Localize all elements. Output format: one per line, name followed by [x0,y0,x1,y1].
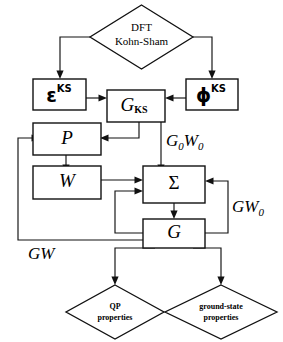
phi-superscript: KS [211,83,226,94]
qp-diamond-shape [66,285,164,339]
arrowhead-w-to-sigma [135,176,144,183]
connector-gks-to-p [107,122,139,138]
node-p[interactable]: P [33,123,101,155]
flowchart-canvas: DFT Kohn-Sham εKS ϕKS GKS P [0,0,283,342]
edge-label-gw0: GW0 [232,197,264,218]
dft-label-line1: DFT [131,21,152,33]
arrowhead-phi-to-gks [165,94,174,101]
edge-label-gw: GW [28,244,56,263]
connector-g-to-sigma-feedback [115,191,143,233]
node-epsilon-ks[interactable]: εKS [33,79,86,110]
g-ks-base-glyph: G [120,94,134,115]
p-label: P [60,127,73,148]
arrowhead-dft-to-phi [208,71,215,80]
epsilon-glyph: ε [46,84,57,106]
node-dft-kohn-sham[interactable]: DFT Kohn-Sham [90,5,193,69]
node-qp-properties[interactable]: QP properties [66,285,164,339]
arrowhead-gw0-loop [205,177,214,184]
epsilon-superscript: KS [57,83,72,94]
g0w0-g: G [166,131,178,150]
arrowhead-sigma-to-g [170,211,177,220]
connector-dft-to-epsilon [60,37,90,72]
node-ground-state-properties[interactable]: ground-state properties [165,285,277,339]
connector-dft-to-phi [193,37,212,72]
gw-flowchart-diagram: DFT Kohn-Sham εKS ϕKS GKS P [0,0,283,342]
ground-state-diamond-shape [165,285,277,339]
ground-state-label-line2: properties [204,313,239,322]
arrowhead-g-to-ground-state [217,277,224,286]
arrowhead-epsilon-to-gks [99,94,108,101]
ground-state-label-line1: ground-state [199,302,243,311]
g-ks-subscript: KS [134,104,148,115]
qp-label-line1: QP [109,302,120,311]
arrowhead-dft-to-epsilon [56,71,63,80]
phi-glyph: ϕ [196,84,211,106]
arrowhead-g-to-qp [111,277,118,286]
connector-gw0-loop [205,181,228,233]
g0w0-w-sub: 0 [198,140,204,152]
node-phi-ks[interactable]: ϕKS [186,79,238,110]
node-w[interactable]: W [33,166,101,199]
gw0-w-sub: 0 [258,206,264,218]
node-g[interactable]: G [143,219,205,248]
connector-g-to-ground-state [193,248,221,278]
arrowhead-g-to-sigma-feedback [135,187,144,194]
node-g-ks[interactable]: GKS [107,90,165,122]
edge-label-g0w0: G0W0 [166,131,204,152]
connector-g-to-qp [115,248,155,278]
dft-label-line2: Kohn-Sham [115,35,169,47]
g-label: G [167,221,181,242]
gw0-g: G [232,197,244,216]
qp-label-line2: properties [98,313,133,322]
w-label: W [59,170,77,191]
sigma-label: Σ [168,172,179,193]
node-sigma[interactable]: Σ [143,166,205,203]
